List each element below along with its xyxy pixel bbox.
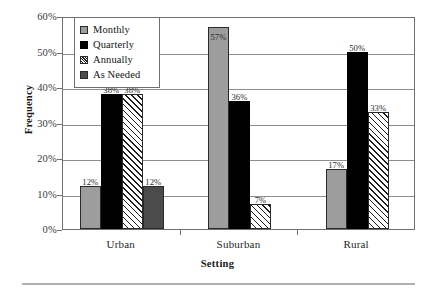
bar-suburban-quarterly <box>229 101 250 229</box>
bar-suburban-monthly <box>208 27 229 229</box>
x-tick-mark <box>297 230 298 235</box>
bar-urban-asneeded <box>143 186 164 229</box>
legend-label-quarterly: Quarterly <box>93 39 134 51</box>
y-tick-label: 60% <box>7 12 57 22</box>
legend-item-monthly: Monthly <box>80 22 154 37</box>
legend-swatch-annually-icon <box>80 56 88 64</box>
y-tick-label: 50% <box>7 48 57 58</box>
chart-legend: Monthly Quarterly Annually As Needed <box>74 17 160 88</box>
y-axis-title: Frequency <box>23 55 34 165</box>
legend-label-monthly: Monthly <box>93 24 130 36</box>
bar-value-label: 36% <box>222 92 257 102</box>
bar-value-label: 50% <box>340 43 375 53</box>
y-tick-label: 30% <box>7 119 57 129</box>
bar-rural-quarterly <box>347 52 368 230</box>
y-tick-label: 40% <box>7 83 57 93</box>
x-tick-label-suburban: Suburban <box>179 238 299 250</box>
x-axis-title: Setting <box>0 258 435 269</box>
bar-chart-figure: Frequency 0%10%20%30%40%50%60% 12%38%38%… <box>0 0 435 299</box>
legend-item-as-needed: As Needed <box>80 67 154 82</box>
footer-divider <box>22 283 415 285</box>
y-tick-label: 20% <box>7 154 57 164</box>
y-tick-label: 0% <box>7 225 57 235</box>
legend-label-as-needed: As Needed <box>93 69 140 81</box>
bar-value-label: 12% <box>136 177 171 187</box>
y-tick-mark <box>57 230 62 231</box>
y-tick-label: 10% <box>7 190 57 200</box>
bar-value-label: 57% <box>201 32 236 42</box>
bar-rural-annually <box>368 112 389 229</box>
bar-urban-monthly <box>80 186 101 229</box>
x-tick-mark <box>180 230 181 235</box>
bar-value-label: 7% <box>243 195 278 205</box>
bar-suburban-annually <box>250 204 271 229</box>
legend-swatch-as-needed-icon <box>80 71 88 79</box>
bar-rural-monthly <box>326 169 347 229</box>
bar-urban-annually <box>122 94 143 229</box>
bar-urban-quarterly <box>101 94 122 229</box>
x-tick-label-urban: Urban <box>61 238 181 250</box>
legend-swatch-monthly-icon <box>80 26 88 34</box>
legend-item-quarterly: Quarterly <box>80 37 154 52</box>
legend-item-annually: Annually <box>80 52 154 67</box>
legend-swatch-quarterly-icon <box>80 41 88 49</box>
x-tick-label-rural: Rural <box>296 238 416 250</box>
bar-value-label: 33% <box>361 103 396 113</box>
legend-label-annually: Annually <box>93 54 133 66</box>
